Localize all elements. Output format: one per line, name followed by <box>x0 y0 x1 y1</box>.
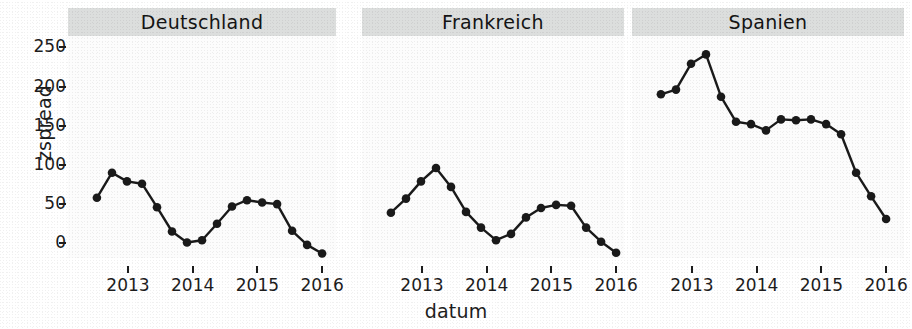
x-tick-mark <box>550 266 552 273</box>
y-tick-mark <box>59 46 66 48</box>
x-tick-mark <box>321 266 323 273</box>
x-tick-label: 2015 <box>231 275 283 295</box>
y-tick-label: 150 <box>11 115 66 135</box>
x-tick-mark <box>885 266 887 273</box>
y-tick-label: 200 <box>11 76 66 96</box>
y-tick-mark <box>59 242 66 244</box>
panel-deutschland: Deutschland 2013201420152016 <box>68 0 336 329</box>
y-tick-label: 100 <box>11 154 66 174</box>
y-tick-mark <box>59 203 66 205</box>
x-tick-label: 2016 <box>860 275 912 295</box>
x-tick-label: 2015 <box>525 275 577 295</box>
x-tick-label: 2013 <box>666 275 718 295</box>
x-tick-mark <box>256 266 258 273</box>
y-tick-mark <box>59 164 66 166</box>
faceted-line-chart: zspread 050100150200250 Deutschland 2013… <box>0 0 912 329</box>
x-tick-mark <box>691 266 693 273</box>
x-tick-label: 2015 <box>795 275 847 295</box>
y-tick-mark <box>59 125 66 127</box>
x-tick-label: 2016 <box>296 275 348 295</box>
x-tick-label: 2014 <box>461 275 513 295</box>
x-tick-mark <box>421 266 423 273</box>
y-tick-label: 0 <box>11 232 66 252</box>
x-tick-label: 2013 <box>102 275 154 295</box>
x-tick-label: 2014 <box>731 275 783 295</box>
panel-frankreich: Frankreich 2013201420152016 <box>362 0 624 329</box>
x-axis-frankreich: 2013201420152016 <box>362 0 624 329</box>
x-tick-mark <box>756 266 758 273</box>
x-tick-mark <box>615 266 617 273</box>
x-tick-label: 2014 <box>167 275 219 295</box>
panel-spanien: Spanien 2013201420152016 <box>632 0 904 329</box>
x-tick-mark <box>820 266 822 273</box>
y-tick-label: 50 <box>11 193 66 213</box>
x-axis-deutschland: 2013201420152016 <box>68 0 336 329</box>
x-axis-spanien: 2013201420152016 <box>632 0 904 329</box>
x-tick-mark <box>127 266 129 273</box>
y-axis: 050100150200250 <box>0 0 66 329</box>
y-tick-label: 250 <box>11 36 66 56</box>
x-tick-label: 2013 <box>396 275 448 295</box>
y-tick-mark <box>59 86 66 88</box>
x-axis-label: datum <box>0 300 912 322</box>
x-tick-mark <box>486 266 488 273</box>
x-tick-mark <box>192 266 194 273</box>
